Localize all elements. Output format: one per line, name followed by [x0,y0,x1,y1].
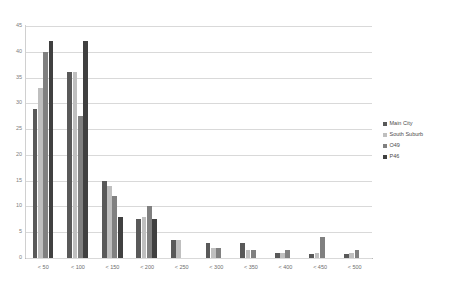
x-axis-tick-label: < 400 [268,265,303,271]
legend-swatch-icon [383,155,387,159]
chart-legend: Main CitySouth SuburbO49P46 [383,119,455,163]
bar [112,196,117,258]
x-axis-tick-label: < 450 [303,265,338,271]
legend-swatch-icon [383,122,387,126]
bar [246,250,251,258]
bar [118,217,123,258]
y-axis-tick-label: 40 [2,49,22,55]
bar [147,206,152,258]
x-axis-tick-label: < 300 [199,265,234,271]
bar [320,237,325,258]
bar [206,243,211,258]
bar-group [268,26,303,258]
bar [344,254,349,258]
bar [285,250,290,258]
y-axis-tick-label: 30 [2,100,22,106]
legend-item[interactable]: Main City [383,119,455,129]
bar [49,41,54,258]
bar [38,88,43,258]
bar [43,52,48,258]
y-axis-tick-label: 45 [2,23,22,29]
bar [176,240,181,258]
bar [280,253,285,258]
bar-group [130,26,165,258]
x-axis-tick-label: < 100 [61,265,96,271]
legend-item[interactable]: P46 [383,152,455,162]
bar [152,219,157,258]
y-axis-tick-label: 20 [2,152,22,158]
bar [73,72,78,258]
y-axis-tick-label: 35 [2,75,22,81]
chart-title [0,0,458,9]
legend-swatch-icon [383,133,387,137]
bar [251,250,256,258]
y-axis-tick-label: 25 [2,126,22,132]
bar [83,41,88,258]
y-axis-tick-label: 15 [2,178,22,184]
bar-chart: 051015202530354045 < 50< 100< 150< 200< … [0,0,458,287]
legend-item-label: South Suburb [390,132,424,138]
bar [349,253,354,258]
bar-group [95,26,130,258]
bar [309,254,314,258]
y-axis-tick-label: 5 [2,229,22,235]
bar-group [26,26,61,258]
x-axis-tick-label: < 350 [234,265,269,271]
y-axis-tick-label: 10 [2,203,22,209]
bar [315,253,320,258]
legend-item-label: Main City [390,121,413,127]
x-axis-tick-label: < 500 [337,265,372,271]
bar [171,240,176,258]
bar [211,248,216,258]
bar [216,248,221,258]
y-axis-tick-label: 0 [2,255,22,261]
bar [33,109,38,259]
bar-group [303,26,338,258]
bar-group [234,26,269,258]
legend-item[interactable]: South Suburb [383,130,455,140]
x-axis-tick-label: < 200 [130,265,165,271]
bar-group [199,26,234,258]
legend-item-label: P46 [390,154,400,160]
bar [355,250,360,258]
plot-area [26,26,372,258]
legend-item-label: O49 [390,143,400,149]
bar-group [337,26,372,258]
legend-item[interactable]: O49 [383,141,455,151]
bar [67,72,72,258]
x-axis-tick-label: < 150 [95,265,130,271]
bar [78,116,83,258]
bar [102,181,107,258]
bar [275,253,280,258]
gridline [26,258,372,259]
bar [142,217,147,258]
legend-swatch-icon [383,144,387,148]
bar [107,186,112,258]
bar-group [61,26,96,258]
bar [240,243,245,258]
bar [136,219,141,258]
bar-group [164,26,199,258]
x-axis-tick-label: < 50 [26,265,61,271]
x-axis-tick-label: < 250 [164,265,199,271]
